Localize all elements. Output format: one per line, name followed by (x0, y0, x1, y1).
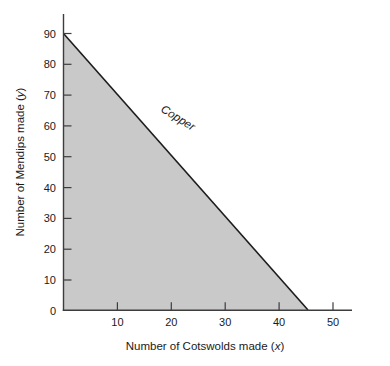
chart-figure: 90 80 70 60 50 40 30 20 10 0 10 20 30 40… (0, 0, 390, 366)
chart-canvas: 90 80 70 60 50 40 30 20 10 0 10 20 30 40… (0, 0, 390, 366)
y-tick-label: 60 (44, 120, 56, 132)
x-tick-label: 20 (165, 316, 177, 328)
x-axis-title-text: Number of Cotswolds made ( (126, 340, 275, 352)
x-axis-title: Number of Cotswolds made (x) (126, 340, 285, 352)
y-tick-label: 80 (44, 58, 56, 70)
x-tick-label: 10 (111, 316, 123, 328)
y-tick-label: 90 (44, 28, 56, 40)
x-axis-title-close: ) (280, 340, 284, 352)
y-axis-title: Number of Mendips made (y) (14, 87, 26, 236)
y-axis-title-close: ) (14, 87, 26, 91)
y-tick-label: 10 (44, 274, 56, 286)
y-tick-label: 50 (44, 151, 56, 163)
x-tick-label: 40 (273, 316, 285, 328)
y-axis-title-text: Number of Mendips made ( (14, 97, 26, 237)
series-label-copper: Copper (159, 103, 198, 134)
x-tick-label: 50 (327, 316, 339, 328)
x-axis-tick-labels: 10 20 30 40 50 (111, 316, 339, 328)
x-tick-label: 30 (219, 316, 231, 328)
y-tick-label: 70 (44, 89, 56, 101)
y-tick-label: 20 (44, 243, 56, 255)
y-tick-label: 0 (50, 305, 56, 317)
y-axis-tick-labels: 90 80 70 60 50 40 30 20 10 0 (44, 28, 56, 317)
y-tick-label: 30 (44, 212, 56, 224)
y-tick-label: 40 (44, 182, 56, 194)
